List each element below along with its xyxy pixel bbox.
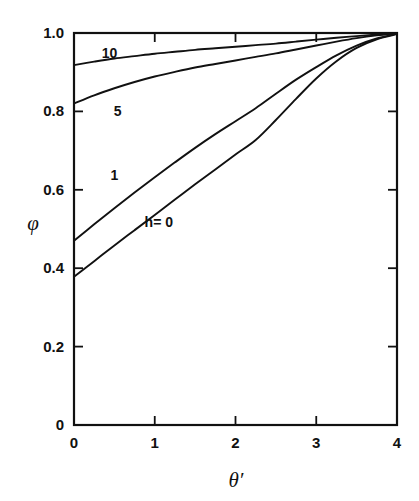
y-tick-label: 0.4 [43, 259, 65, 276]
y-axis-title: φ [27, 211, 39, 235]
y-axis-ticks [74, 33, 397, 425]
x-axis-ticks [74, 33, 397, 425]
x-tick-label: 3 [312, 434, 320, 451]
curve-h1 [74, 34, 397, 241]
y-tick-label: 1.0 [43, 24, 64, 41]
curve-label-h1: 1 [110, 167, 118, 183]
x-tick-label: 1 [151, 434, 159, 451]
x-axis-tick-labels: 01234 [70, 434, 402, 451]
y-tick-label: 0.2 [43, 338, 64, 355]
data-curves [74, 33, 397, 276]
curve-label-h10: 10 [102, 45, 118, 61]
plot-frame [74, 33, 397, 425]
curve-h5 [74, 33, 397, 103]
x-tick-label: 0 [70, 434, 78, 451]
curve-label-h5: 5 [114, 103, 122, 119]
chart-canvas: 01234 00.20.40.60.81.0 h= 01510 θ′ φ [0, 0, 419, 501]
y-axis-tick-labels: 00.20.40.60.81.0 [43, 24, 65, 433]
curve-h0 [74, 34, 397, 277]
y-tick-label: 0.8 [43, 102, 64, 119]
curve-label-h0: h= 0 [145, 214, 174, 230]
x-tick-label: 4 [393, 434, 402, 451]
x-axis-title: θ′ [229, 468, 244, 492]
y-tick-label: 0.6 [43, 181, 64, 198]
chart-figure: 01234 00.20.40.60.81.0 h= 01510 θ′ φ [0, 0, 419, 501]
x-tick-label: 2 [231, 434, 239, 451]
curve-labels: h= 01510 [102, 45, 173, 230]
y-tick-label: 0 [56, 416, 64, 433]
